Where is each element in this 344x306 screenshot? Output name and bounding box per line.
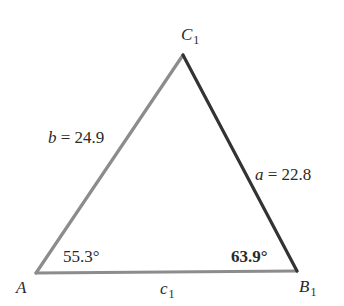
side-c1-label: c1 (160, 280, 175, 297)
vertex-a-letter: A (16, 278, 26, 297)
side-c1-variable: c (160, 279, 168, 298)
vertex-c1-letter: C (181, 25, 192, 44)
angle-b1-value: 63.9° (231, 247, 268, 266)
vertex-b1-letter: B (299, 277, 309, 296)
side-c1-subscript: 1 (169, 287, 175, 301)
vertex-label-a: A (16, 279, 26, 296)
side-c1 (36, 271, 297, 273)
angle-a-label: 55.3° (63, 248, 100, 265)
side-a-variable: a (255, 165, 264, 184)
vertex-label-c1: C1 (181, 26, 199, 43)
side-b-value: = 24.9 (57, 128, 105, 147)
triangle-figure (0, 0, 344, 306)
triangle-diagram: C1 A B1 b = 24.9 a = 22.8 c1 55.3° 63.9° (0, 0, 344, 306)
side-a (183, 55, 297, 271)
vertex-b1-subscript: 1 (310, 285, 316, 299)
side-b-variable: b (48, 128, 57, 147)
side-b-label: b = 24.9 (48, 129, 104, 146)
angle-a-value: 55.3° (63, 247, 100, 266)
angle-b1-label: 63.9° (231, 248, 268, 265)
side-a-value: = 22.8 (264, 165, 312, 184)
side-a-label: a = 22.8 (255, 166, 311, 183)
vertex-label-b1: B1 (299, 278, 316, 295)
side-b (36, 55, 183, 273)
vertex-c1-subscript: 1 (193, 33, 199, 47)
